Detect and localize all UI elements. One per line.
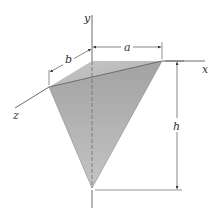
z-axis [15, 87, 49, 108]
dimension-b-label: b [65, 53, 72, 66]
diagram-svg: y x z a b h [0, 0, 213, 223]
dimension-a-label: a [124, 41, 131, 54]
tetrahedron-diagram: y x z a b h [0, 0, 213, 223]
y-axis-label: y [83, 12, 91, 25]
dimension-h-label: h [173, 120, 180, 133]
x-axis-label: x [202, 63, 209, 76]
z-axis-label: z [12, 109, 19, 122]
